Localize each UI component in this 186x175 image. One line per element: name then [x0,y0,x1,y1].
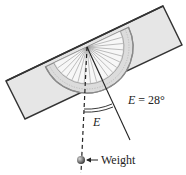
weight-ball [77,156,85,164]
arrow-icon [86,158,98,163]
angle-equation: E = 28° [127,93,165,107]
weight-label: Weight [101,153,136,167]
angle-arc [84,104,113,112]
angle-label: E [92,115,101,129]
diagram-canvas: Weight E E = 28° [0,0,186,175]
